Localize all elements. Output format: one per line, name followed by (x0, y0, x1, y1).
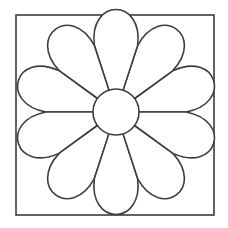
flower-diagram (0, 0, 228, 228)
center-circle (93, 89, 139, 135)
